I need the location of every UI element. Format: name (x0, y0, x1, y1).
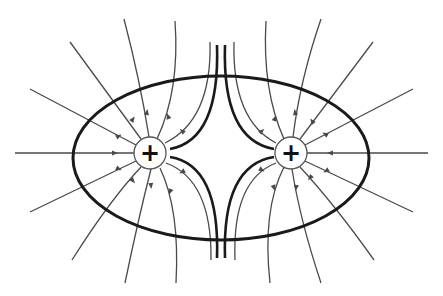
field-diagram: ++ (0, 0, 443, 296)
separatrix-lower-right (225, 157, 274, 258)
arrowhead-icon (112, 151, 118, 156)
field-diagram-canvas: ++ (0, 0, 443, 296)
left-line-nw (70, 42, 141, 139)
charges-group: ++ (134, 137, 307, 169)
plus-sign-icon: + (140, 139, 160, 167)
left-charge: + (134, 137, 166, 169)
arrowhead-icon (115, 165, 123, 172)
separatrix-upper-right (225, 45, 274, 149)
left-line-sse (160, 168, 177, 283)
right-line-n (293, 19, 321, 137)
arrowhead-icon (322, 167, 330, 174)
equipotential-ellipse (73, 76, 369, 240)
right-line-ne (300, 42, 373, 139)
right-line-ssw (268, 167, 284, 283)
plus-sign-icon: + (281, 139, 301, 167)
left-line-nnw (124, 19, 149, 137)
arrowhead-icon (115, 132, 123, 139)
right-charge: + (275, 137, 307, 169)
arrowhead-icon (148, 183, 154, 189)
arrowhead-icon (129, 115, 137, 123)
arrowhead-icon (308, 117, 316, 125)
field-lines-group (15, 19, 428, 283)
arrowhead-icon (327, 151, 333, 156)
